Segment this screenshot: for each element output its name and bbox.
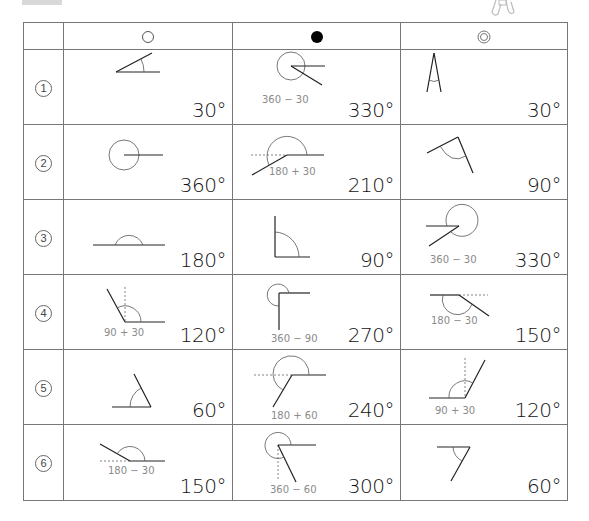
angle-cell: 180 − 30 150° <box>401 275 568 350</box>
answer-label: 270° <box>348 323 394 347</box>
table-row: 2 360° 180 + 30 210° <box>24 125 568 200</box>
answer-label: 90° <box>527 173 561 197</box>
row-number: 3 <box>24 200 64 275</box>
answer-label: 120° <box>515 398 561 422</box>
angle-cell: 60° <box>64 350 233 425</box>
filled-circle-icon <box>310 30 324 44</box>
angle-cell: 360 − 30 330° <box>401 200 568 275</box>
double-circle-icon <box>477 30 491 44</box>
angle-cell: 180 − 30 150° <box>64 425 233 501</box>
answer-label: 120° <box>180 323 226 347</box>
header-row <box>24 23 568 50</box>
open-circle-icon <box>141 30 155 44</box>
answer-label: 360° <box>180 173 226 197</box>
hint-label: 360 − 30 <box>262 94 309 105</box>
header-double-circle <box>401 23 568 50</box>
angle-cell: 30° <box>401 50 568 125</box>
angle-cell: 90° <box>233 200 401 275</box>
answer-label: 90° <box>360 248 394 272</box>
header-open-circle <box>64 23 233 50</box>
answer-label: 30° <box>192 98 226 122</box>
compass-icon <box>484 0 524 20</box>
angle-cell: 360° <box>64 125 233 200</box>
angle-cell: 360 − 30 330° <box>233 50 401 125</box>
header-corner <box>24 23 64 50</box>
row-number: 6 <box>24 425 64 501</box>
answer-label: 30° <box>527 98 561 122</box>
angle-cell: 360 − 60 300° <box>233 425 401 501</box>
answer-label: 240° <box>348 398 394 422</box>
angle-cell: 360 − 90 270° <box>233 275 401 350</box>
answer-label: 210° <box>348 173 394 197</box>
row-number: 2 <box>24 125 64 200</box>
answer-label: 150° <box>515 323 561 347</box>
hint-label: 180 − 30 <box>108 465 155 476</box>
angle-cell: 90° <box>401 125 568 200</box>
answer-label: 60° <box>527 474 561 498</box>
table-row: 1 30° 360 − 30 330° <box>24 50 568 125</box>
answer-label: 330° <box>515 248 561 272</box>
angle-cell: 90 + 30 120° <box>64 275 233 350</box>
hint-label: 90 + 30 <box>435 405 475 416</box>
answer-label: 300° <box>348 474 394 498</box>
hint-label: 90 + 30 <box>104 327 144 338</box>
hint-label: 180 − 30 <box>431 315 478 326</box>
angle-cell: 180° <box>64 200 233 275</box>
header-filled-circle <box>233 23 401 50</box>
answer-label: 330° <box>348 98 394 122</box>
angle-cell: 60° <box>401 425 568 501</box>
hint-label: 360 − 60 <box>270 484 317 495</box>
answer-label: 60° <box>192 398 226 422</box>
answer-label: 180° <box>180 248 226 272</box>
hint-label: 180 + 30 <box>269 166 316 177</box>
table-row: 3 180° 90° <box>24 200 568 275</box>
table-row: 5 60° 180 + 60 240° <box>24 350 568 425</box>
hint-label: 180 + 60 <box>271 410 318 421</box>
angle-cell: 30° <box>64 50 233 125</box>
row-number: 1 <box>24 50 64 125</box>
table-row: 4 90 + 30 120° 360 − 90 270° <box>24 275 568 350</box>
answer-label: 150° <box>180 474 226 498</box>
row-number: 5 <box>24 350 64 425</box>
hint-label: 360 − 30 <box>430 254 477 265</box>
title-placeholder <box>22 0 62 5</box>
table-row: 6 180 − 30 150° 360 − 60 <box>24 425 568 501</box>
angle-table: 1 30° 360 − 30 330° <box>23 22 568 501</box>
angle-cell: 90 + 30 120° <box>401 350 568 425</box>
angle-cell: 180 + 60 240° <box>233 350 401 425</box>
angle-cell: 180 + 30 210° <box>233 125 401 200</box>
row-number: 4 <box>24 275 64 350</box>
hint-label: 360 − 90 <box>271 333 318 344</box>
